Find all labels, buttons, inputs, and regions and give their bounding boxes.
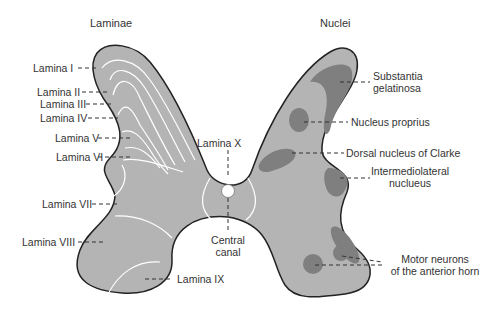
label-dorsal-nucleus-of-clarke: Dorsal nucleus of Clarke [346,147,460,159]
label-lamina-ii: Lamina II [37,86,80,98]
label-lamina-vii: Lamina VII [42,198,92,210]
motor-nucleus-ventral [303,254,323,274]
laminae-header: Laminae [90,17,132,29]
label-lamina-ix: Lamina IX [177,273,224,285]
label-substantia-gelatinosa: Substantia gelatinosa [373,70,423,94]
label-lamina-iii: Lamina III [40,98,86,110]
motor-nucleus-medial [333,245,349,261]
label-central-canal: Central canal [205,234,251,258]
central-canal [222,185,235,198]
label-lamina-vi: Lamina VI [56,151,103,163]
label-lamina-viii: Lamina VIII [22,236,75,248]
spinal-cord-diagram: Laminae Nuclei Lamina I Lamina II Lamina… [0,0,491,312]
label-lamina-v: Lamina V [55,132,99,144]
label-nucleus-proprius: Nucleus proprius [351,116,430,128]
nucleus-proprius [289,108,309,132]
label-lamina-x: Lamina X [197,137,241,149]
label-lamina-iv: Lamina IV [40,112,87,124]
label-motor-neurons: Motor neurons of the anterior horn [382,253,488,277]
label-lamina-i: Lamina I [33,62,73,74]
label-intermediolateral-nucleus: Intermediolateral nuclueus [360,165,460,189]
nuclei-header: Nuclei [320,17,351,29]
